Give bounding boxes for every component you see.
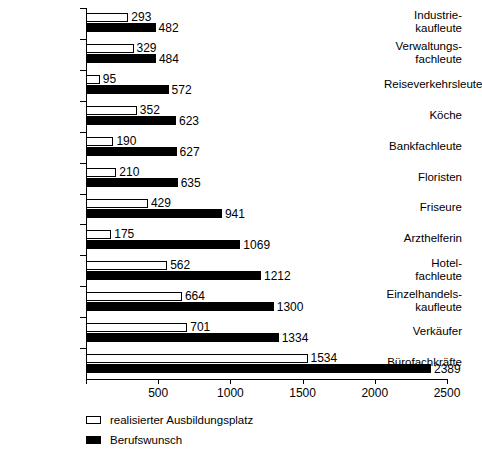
- bar-berufswunsch: [86, 209, 222, 218]
- bar-berufswunsch: [86, 240, 240, 249]
- bar-berufswunsch: [86, 333, 279, 342]
- y-tick: [80, 224, 86, 225]
- category-label: Verkäufer: [384, 325, 462, 338]
- category-label-line: Bankfachleute: [384, 140, 462, 153]
- y-tick: [80, 101, 86, 102]
- category-label: Verwaltungs-fachleute: [384, 40, 462, 66]
- bar-berufswunsch: [86, 23, 156, 32]
- x-tick: [86, 379, 87, 384]
- category-label: Einzelhandels-kaufleute: [384, 288, 462, 314]
- category-label: Bankfachleute: [384, 140, 462, 153]
- category-label: Friseure: [384, 201, 462, 214]
- bar-value-label: 701: [190, 321, 210, 333]
- category-label-line: Verwaltungs-: [384, 40, 462, 53]
- category-label-line: Friseure: [384, 201, 462, 214]
- bar-realisierter-ausbildungsplatz: [86, 106, 137, 115]
- category-label: Hotel-fachleute: [384, 257, 462, 283]
- bar-realisierter-ausbildungsplatz: [86, 168, 116, 177]
- bar-berufswunsch: [86, 116, 176, 125]
- bar-realisierter-ausbildungsplatz: [86, 75, 100, 84]
- bar-value-label: 627: [180, 146, 200, 158]
- legend-item-berufswunsch: Berufswunsch: [86, 432, 253, 448]
- bar-value-label: 482: [159, 22, 179, 34]
- bar-value-label: 664: [185, 290, 205, 302]
- legend-label: realisierter Ausbildungsplatz: [110, 414, 253, 426]
- category-label-line: Verkäufer: [384, 325, 462, 338]
- bar-value-label: 210: [119, 166, 139, 178]
- bar-berufswunsch: [86, 178, 178, 187]
- y-tick: [80, 348, 86, 349]
- bar-value-label: 1334: [282, 332, 309, 344]
- chart-legend: realisierter Ausbildungsplatz Berufswuns…: [86, 412, 253, 452]
- bar-realisierter-ausbildungsplatz: [86, 230, 111, 239]
- x-tick: [158, 379, 159, 384]
- bar-value-label: 175: [114, 228, 134, 240]
- bar-value-label: 1212: [264, 270, 291, 282]
- x-tick-label: 1500: [273, 386, 333, 400]
- x-tick-label: 2500: [417, 386, 477, 400]
- y-tick: [80, 132, 86, 133]
- legend-swatch-light-icon: [86, 416, 101, 424]
- x-tick: [375, 379, 376, 384]
- bar-value-label: 352: [140, 104, 160, 116]
- bar-value-label: 2389: [434, 363, 461, 375]
- category-label-line: Reiseverkehrsleute: [384, 78, 462, 91]
- category-label-line: Hotel-: [384, 257, 462, 270]
- category-label-line: Einzelhandels-: [384, 288, 462, 301]
- bar-value-label: 941: [225, 208, 245, 220]
- category-label: Reiseverkehrsleute: [384, 78, 462, 91]
- bar-value-label: 429: [151, 197, 171, 209]
- category-label-line: kaufleute: [384, 301, 462, 314]
- x-tick-label: 2000: [345, 386, 405, 400]
- bar-realisierter-ausbildungsplatz: [86, 354, 308, 363]
- bar-realisierter-ausbildungsplatz: [86, 323, 187, 332]
- y-tick: [80, 70, 86, 71]
- y-tick: [80, 255, 86, 256]
- y-tick: [80, 8, 86, 9]
- bar-value-label: 293: [131, 11, 151, 23]
- legend-label: Berufswunsch: [110, 434, 182, 446]
- category-label-line: fachleute: [384, 270, 462, 283]
- bar-realisierter-ausbildungsplatz: [86, 261, 167, 270]
- bar-value-label: 572: [172, 84, 192, 96]
- x-tick-label: 500: [128, 386, 188, 400]
- x-axis-line: [86, 379, 447, 380]
- bar-realisierter-ausbildungsplatz: [86, 292, 182, 301]
- category-label: Köche: [384, 109, 462, 122]
- category-label-line: Arzthelferin: [384, 232, 462, 245]
- bar-value-label: 635: [181, 177, 201, 189]
- bar-berufswunsch: [86, 54, 156, 63]
- bar-realisierter-ausbildungsplatz: [86, 199, 148, 208]
- x-tick: [303, 379, 304, 384]
- category-label-line: Köche: [384, 109, 462, 122]
- x-tick-label: 1000: [200, 386, 260, 400]
- category-label-line: kaufleute: [384, 22, 462, 35]
- y-tick: [80, 163, 86, 164]
- bar-berufswunsch: [86, 364, 431, 373]
- bar-berufswunsch: [86, 302, 274, 311]
- category-label: Floristen: [384, 171, 462, 184]
- y-tick: [80, 286, 86, 287]
- y-tick: [80, 39, 86, 40]
- bar-berufswunsch: [86, 271, 261, 280]
- category-label-line: Floristen: [384, 171, 462, 184]
- category-label: Industrie-kaufleute: [384, 9, 462, 35]
- x-tick: [447, 379, 448, 384]
- bar-value-label: 562: [170, 259, 190, 271]
- bar-berufswunsch: [86, 85, 169, 94]
- y-tick: [80, 194, 86, 195]
- bar-value-label: 484: [159, 53, 179, 65]
- category-label: Arzthelferin: [384, 232, 462, 245]
- legend-item-realisierter-ausbildungsplatz: realisierter Ausbildungsplatz: [86, 412, 253, 428]
- y-tick: [80, 317, 86, 318]
- bar-realisierter-ausbildungsplatz: [86, 137, 113, 146]
- bar-value-label: 190: [116, 135, 136, 147]
- bar-value-label: 329: [137, 42, 157, 54]
- bar-value-label: 1300: [277, 301, 304, 313]
- category-label-line: fachleute: [384, 53, 462, 66]
- bar-realisierter-ausbildungsplatz: [86, 13, 128, 22]
- bar-value-label: 1534: [311, 352, 338, 364]
- x-tick: [230, 379, 231, 384]
